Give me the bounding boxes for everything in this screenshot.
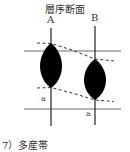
horizon-label-a-right: a [86, 109, 91, 118]
lens-zone-b [84, 59, 106, 100]
figure-caption: 7）多産帯 [2, 137, 48, 152]
horizon-label-a-left: a [41, 94, 46, 103]
stratigraphic-section-figure [0, 0, 130, 152]
lens-zone-a [40, 43, 62, 88]
